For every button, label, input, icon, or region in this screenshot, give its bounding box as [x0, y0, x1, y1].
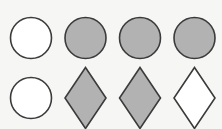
gray-circle-shape [120, 18, 161, 59]
gray-circle-shape [65, 18, 106, 59]
white-circle-shape [11, 78, 52, 119]
gray-circle-shape [174, 18, 215, 59]
white-circle-shape [11, 18, 52, 59]
shape-grid-figure [0, 0, 222, 129]
